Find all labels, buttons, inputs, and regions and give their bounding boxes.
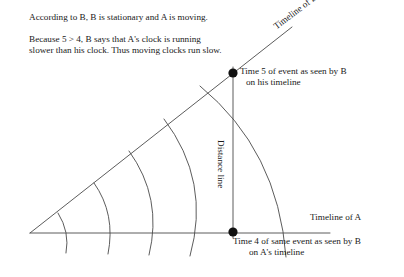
calibration-arc-2 [94,183,110,254]
annotation-event-time5: Time 5 of event as seen by B on his time… [240,66,347,88]
label-distance-line: Distance line [215,140,226,188]
annotation-event-time4: Time 4 of same event as seen by B on A's… [233,236,361,258]
calibration-arc-3 [129,151,153,255]
annotation-event-time5-line-2: on his timeline [240,77,347,88]
annotation-event-time4-line-1: Time 4 of same event as seen by B [233,236,361,246]
label-timeline-of-a: Timeline of A [310,212,361,223]
calibration-arc-5 [200,86,286,257]
paragraph-2-line-1: Because 5 > 4, B says that A's clock is … [29,34,201,44]
paragraph-statement-2: Because 5 > 4, B says that A's clock is … [29,34,222,56]
annotation-event-time4-line-2: on A's timeline [233,247,361,258]
figure-canvas: According to B, B is stationary and A is… [0,0,404,277]
paragraph-2-line-2: slower than his clock. Thus moving clock… [29,45,222,55]
calibration-arc-4 [164,119,196,256]
event-node-time5[interactable] [228,68,237,77]
annotation-event-time5-line-1: Time 5 of event as seen by B [240,66,347,76]
paragraph-statement-1: According to B, B is stationary and A is… [29,12,208,23]
timeline-b-worldline-line [30,27,292,233]
